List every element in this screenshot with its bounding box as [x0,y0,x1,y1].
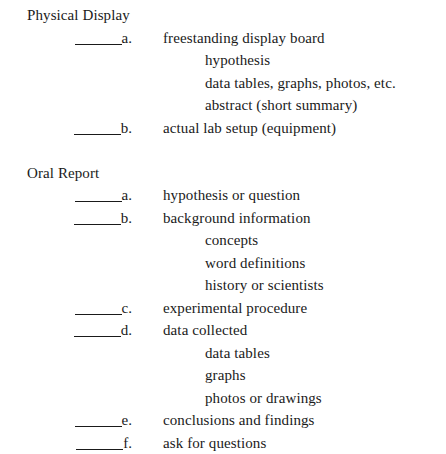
item-text: actual lab setup (equipment) [163,117,336,140]
item-letter: b. [121,207,132,230]
subitem-text: graphs [205,364,246,387]
item-letter: a. [122,27,132,50]
item-letter: d. [121,319,132,342]
checklist-subitem-row: word definitions [0,252,446,275]
checklist-blank-and-letter[interactable]: a. [40,184,132,207]
subitem-text: photos or drawings [205,387,322,410]
checklist-item-row: c.experimental procedure [0,297,446,320]
checklist-blank-and-letter[interactable]: f. [40,432,132,454]
section-gap [0,139,446,162]
item-text: hypothesis or question [163,184,300,207]
item-letter: b. [121,117,132,140]
checklist-blank-and-letter[interactable]: a. [40,27,132,50]
item-letter: f. [123,432,132,454]
section-title: Physical Display [0,4,446,27]
section: Oral Reporta.hypothesis or questionb.bac… [0,162,446,454]
subitem-text: history or scientists [205,274,324,297]
checkmark-blank-line[interactable] [74,212,121,225]
item-letter: e. [122,409,132,432]
item-text: background information [163,207,311,230]
checkmark-blank-line[interactable] [75,302,122,315]
checklist-blank-and-letter[interactable]: b. [40,117,132,140]
sections-container: Physical Displaya.freestanding display b… [0,4,446,454]
checkmark-blank-line[interactable] [76,437,123,450]
section-title: Oral Report [0,162,446,185]
checkmark-blank-line[interactable] [75,414,122,427]
item-text: experimental procedure [163,297,307,320]
checkmark-blank-line[interactable] [74,324,121,337]
checklist-subitem-row: graphs [0,364,446,387]
item-text: data collected [163,319,247,342]
checklist-item-row: a.freestanding display board [0,27,446,50]
subitem-text: data tables, graphs, photos, etc. [205,72,396,95]
checklist-subitem-row: data tables [0,342,446,365]
checklist-subitem-row: abstract (short summary) [0,94,446,117]
checklist-item-row: e.conclusions and findings [0,409,446,432]
checklist-blank-and-letter[interactable]: b. [40,207,132,230]
subitem-text: data tables [205,342,270,365]
checklist-blank-and-letter[interactable]: e. [40,409,132,432]
checkmark-blank-line[interactable] [74,122,121,135]
subitem-text: word definitions [205,252,305,275]
checklist-item-row: b.background information [0,207,446,230]
checklist-subitem-row: concepts [0,229,446,252]
item-text: conclusions and findings [163,409,315,432]
item-letter: a. [122,184,132,207]
checkmark-blank-line[interactable] [75,189,122,202]
item-text: freestanding display board [163,27,325,50]
checklist-subitem-row: photos or drawings [0,387,446,410]
checklist-blank-and-letter[interactable]: c. [40,297,132,320]
checklist-item-row: b.actual lab setup (equipment) [0,117,446,140]
checklist-item-row: a.hypothesis or question [0,184,446,207]
item-text: ask for questions [163,432,266,454]
checklist-subitem-row: data tables, graphs, photos, etc. [0,72,446,95]
subitem-text: concepts [205,229,258,252]
checklist-subitem-row: history or scientists [0,274,446,297]
subitem-text: hypothesis [205,49,270,72]
checklist-blank-and-letter[interactable]: d. [40,319,132,342]
checklist-subitem-row: hypothesis [0,49,446,72]
item-letter: c. [122,297,132,320]
checklist-item-row: d.data collected [0,319,446,342]
checkmark-blank-line[interactable] [75,32,122,45]
subitem-text: abstract (short summary) [205,94,357,117]
checklist-item-row: f.ask for questions [0,432,446,454]
section: Physical Displaya.freestanding display b… [0,4,446,139]
